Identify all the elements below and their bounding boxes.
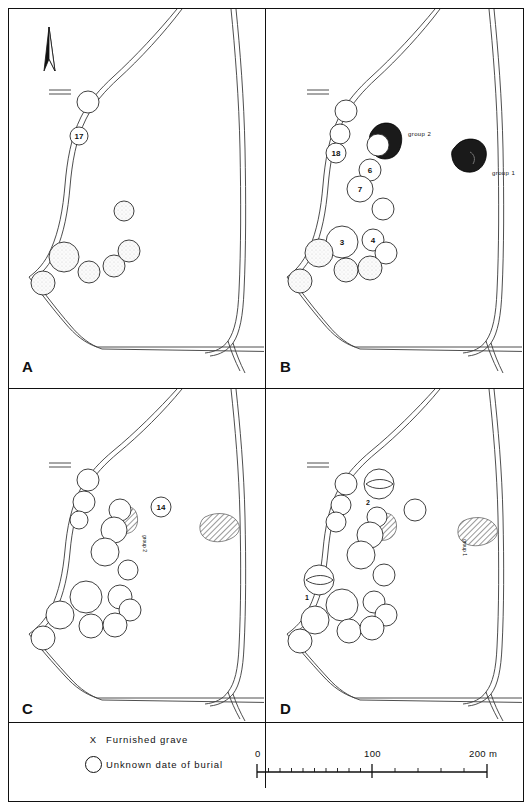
panel-letter-a: A	[22, 358, 33, 375]
furnished-grave-icon: X	[80, 734, 106, 745]
scale-label-start: 0	[255, 748, 261, 759]
group-label-2-c: group 2	[142, 535, 148, 552]
scale-bar: 0 100 200 m	[255, 752, 505, 782]
scale-label-end: 200 m	[469, 748, 497, 759]
scale-label-mid: 100	[364, 748, 381, 759]
north-arrow	[44, 27, 55, 71]
mound-label-18: 18	[332, 149, 341, 158]
mound-label-2: 2	[366, 499, 370, 506]
mound-label-7: 7	[358, 185, 363, 194]
group-label-2: group 2	[408, 131, 431, 137]
panel-letter-c: C	[22, 700, 33, 717]
panel-letter-b: B	[280, 358, 291, 375]
mound-label-17: 17	[75, 132, 84, 141]
mound-1-excavated	[304, 565, 334, 595]
mound-label-1: 1	[305, 594, 309, 601]
panel-letter-d: D	[280, 700, 291, 717]
panel-c: 14 group 2	[9, 389, 264, 721]
mound-2-excavated	[364, 469, 394, 499]
panel-a: 17	[9, 9, 264, 387]
mound-label-5: 5	[376, 141, 381, 150]
panel-b: 18 5 6 7 3 4 group 2 group 1	[267, 9, 522, 387]
legend-item-unknown-date: Unknown date of burial	[80, 756, 223, 773]
mound-label-3: 3	[340, 238, 345, 247]
panel-d: 2 1 group 1	[267, 389, 522, 721]
figure-root: 17 A	[0, 0, 532, 810]
mound-label-4: 4	[371, 236, 376, 245]
mound-label-14: 14	[157, 503, 166, 512]
unknown-burial-circle-icon	[80, 756, 106, 773]
panel-divider-vertical	[265, 8, 266, 788]
hatch-blob-group1	[200, 514, 240, 542]
group-label-1: group 1	[492, 170, 515, 176]
group-blob-1	[452, 139, 487, 172]
group-label-1-d: group 1	[462, 539, 468, 556]
mound-label-6: 6	[368, 166, 373, 175]
legend-divider	[8, 722, 524, 723]
legend-label-furnished-grave: Furnished grave	[106, 734, 188, 745]
legend-item-furnished-grave: X Furnished grave	[80, 734, 188, 745]
legend-label-unknown-date: Unknown date of burial	[106, 759, 223, 770]
